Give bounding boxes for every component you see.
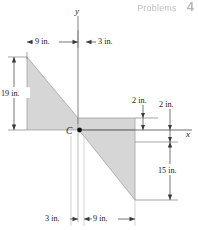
top-left-arrow-right-icon bbox=[73, 40, 79, 44]
upper-thickness-dim-label: 2 in. bbox=[132, 96, 147, 105]
left-arrow-top-icon bbox=[12, 57, 16, 63]
right-height-dimension-group: 15 in. bbox=[135, 142, 187, 200]
bottom-right-arrow-right-icon bbox=[130, 217, 136, 221]
left-dim-label: 19 in. bbox=[1, 89, 20, 98]
centroid-dot-icon bbox=[77, 128, 82, 133]
lower-thickness-arrow-lower-icon bbox=[168, 137, 172, 142]
top-dimension-group: 9 in. 3 in. bbox=[27, 30, 122, 59]
left-arrow-bottom-icon bbox=[12, 125, 16, 131]
top-right-dim-label: 3 in. bbox=[98, 37, 113, 46]
upper-thickness-arrow-icon bbox=[141, 113, 145, 118]
upper-thickness-arrow-lower-icon bbox=[141, 125, 145, 130]
centroid-label: C bbox=[66, 126, 73, 136]
bottom-right-dim-label: 9 in. bbox=[93, 214, 108, 223]
bottom-right-arrow-left-icon bbox=[84, 217, 90, 221]
right-height-arrow-bottom-icon bbox=[168, 195, 172, 201]
bottom-left-dim-label: 3 in. bbox=[45, 214, 60, 223]
cross-section-figure: y x C 9 in. 3 in. bbox=[0, 0, 198, 230]
left-dimension-group: 19 in. bbox=[0, 57, 30, 130]
top-left-dim-label: 9 in. bbox=[35, 37, 50, 46]
x-axis-label: x bbox=[185, 129, 190, 139]
top-left-arrow-left-icon bbox=[27, 40, 33, 44]
right-height-arrow-top-icon bbox=[168, 142, 172, 148]
bottom-left-arrow-right-icon bbox=[73, 217, 79, 221]
figure-root: Problems 4 y x C bbox=[0, 0, 198, 230]
lower-thickness-arrow-icon bbox=[168, 125, 172, 130]
right-height-dim-label: 15 in. bbox=[158, 166, 177, 175]
top-right-arrow-left-icon bbox=[86, 40, 92, 44]
lower-thickness-dim-label: 2 in. bbox=[159, 100, 174, 109]
upper-right-flange-region bbox=[78, 118, 135, 130]
upper-left-web-region bbox=[27, 57, 78, 130]
flange-thickness-dimension-group: 2 in. 2 in. bbox=[131, 94, 184, 142]
lower-right-web-region bbox=[78, 130, 135, 200]
y-axis-label: y bbox=[74, 6, 79, 16]
